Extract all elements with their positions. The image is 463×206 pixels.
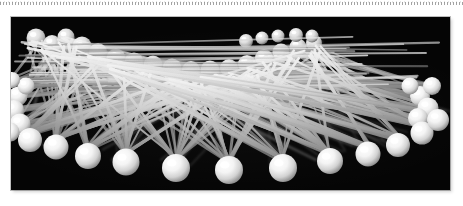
pin-head-highlight (274, 159, 284, 166)
pin-head-highlight (220, 161, 230, 168)
pin-head-highlight (48, 139, 57, 146)
pin-head (269, 154, 297, 182)
pin-head-highlight (46, 38, 52, 43)
pin-head (306, 30, 319, 43)
ruler-tick-row (0, 2, 463, 5)
pin-head-highlight (30, 32, 36, 37)
pin-head-highlight (80, 148, 89, 155)
pin-head-highlight (322, 153, 331, 160)
pin-head (18, 78, 35, 95)
pin-head-highlight (13, 117, 20, 122)
pin-head (18, 128, 42, 152)
pin-head-highlight (21, 81, 27, 85)
pin-head-highlight (258, 34, 262, 37)
pin-head (272, 30, 285, 43)
pins-photograph (11, 17, 450, 190)
pin-head-highlight (431, 113, 438, 119)
pin-head-highlight (117, 154, 126, 161)
pin-head (256, 32, 269, 45)
pin-head-highlight (415, 126, 423, 132)
pin-head (75, 143, 101, 169)
pin-head-highlight (167, 159, 177, 166)
pin-head-highlight (390, 138, 398, 144)
pin-head (289, 28, 303, 42)
pin-head (44, 135, 69, 160)
pin-head (317, 148, 343, 174)
photo-caption: Close-up photograph of many white ball-h… (0, 16, 1, 17)
pin-head-highlight (412, 112, 419, 117)
pin-head (386, 133, 410, 157)
pin-head (215, 156, 243, 184)
pin-head (162, 154, 190, 182)
pin-head-highlight (308, 32, 312, 35)
pin-head-highlight (426, 80, 432, 85)
dotted-ruler-strip (0, 0, 463, 8)
pin-head (113, 149, 140, 176)
pin-head (356, 142, 381, 167)
pin-head-highlight (61, 32, 67, 36)
pin-head-highlight (421, 101, 428, 106)
pin-head (427, 109, 449, 131)
pin-head-highlight (12, 90, 18, 95)
pin-head-highlight (22, 133, 30, 139)
pin-head-highlight (292, 31, 297, 35)
pin-head-highlight (274, 32, 278, 35)
pin-head (423, 77, 441, 95)
pin-head (402, 78, 419, 95)
photo-frame (11, 17, 450, 190)
pin-head-highlight (405, 81, 411, 85)
pin-head-highlight (360, 146, 369, 153)
